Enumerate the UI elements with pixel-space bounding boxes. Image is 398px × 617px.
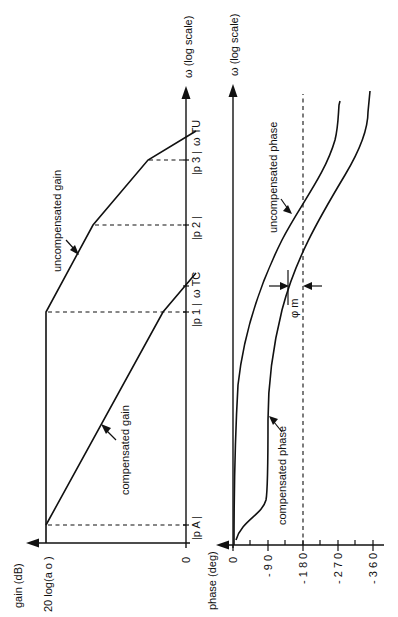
phase-margin-right-arrow-icon	[303, 282, 312, 290]
uncompensated-phase-label: uncompensated phase	[267, 122, 279, 233]
phase-plot: ω (log scale) phase (deg) 0 - 9 0 - 1 8 …	[206, 14, 384, 610]
gain-frequency-arrow-icon	[182, 86, 191, 99]
phase-frequency-axis-label: ω (log scale)	[228, 14, 240, 76]
label-pA: |p A |	[190, 516, 202, 540]
phase-tick-label-180: - 1 8 0	[297, 553, 309, 584]
compensated-phase-curve	[236, 91, 370, 540]
phase-tick-label-360: - 3 6 0	[367, 553, 379, 584]
gain-axis-label: gain (dB)	[12, 563, 24, 608]
compensated-phase-label: compensated phase	[276, 426, 288, 525]
phase-tick-label-0: 0	[227, 557, 239, 563]
label-p1: |p 1 |	[190, 303, 202, 327]
phase-axis-label: phase (deg)	[206, 551, 218, 610]
bode-diagram: ω (log scale) gain (dB) 20 log(a o ) 0 |…	[0, 0, 398, 617]
label-p2: |p 2 |	[190, 216, 202, 240]
compensated-gain-arrow-icon	[101, 424, 111, 434]
uncompensated-gain-label: uncompensated gain	[51, 170, 63, 272]
uncompensated-phase-arrow-icon	[283, 205, 292, 214]
phase-tick-label-270: - 2 7 0	[332, 553, 344, 584]
gain-plot: ω (log scale) gain (dB) 20 log(a o ) 0 |…	[12, 16, 202, 612]
gain-level-zero: 0	[180, 557, 192, 563]
phase-degree-arrow-icon	[216, 541, 229, 550]
phase-margin-label: φ m	[288, 299, 300, 318]
phase-frequency-arrow-icon	[229, 84, 238, 97]
compensated-gain-label: compensated gain	[119, 405, 131, 495]
label-wTC: ω TC	[190, 272, 202, 298]
gain-frequency-axis-label: ω (log scale)	[182, 16, 194, 78]
compensated-phase-arrow-icon	[269, 416, 278, 425]
label-p3: |p 3 |	[190, 151, 202, 175]
phase-tick-label-90: - 9 0	[262, 555, 274, 577]
gain-level-20log-a0: 20 log(a o )	[42, 556, 54, 612]
gain-magnitude-arrow-icon	[26, 539, 39, 548]
